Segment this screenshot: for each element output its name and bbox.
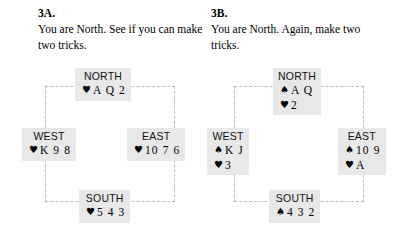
heart-icon: ♥ bbox=[345, 158, 354, 172]
hand-east-cards: 10 7 6 bbox=[145, 144, 180, 156]
hand-east-label: EAST bbox=[132, 130, 180, 143]
hand-south-suit-hearts: ♥5 4 3 bbox=[84, 205, 125, 220]
heart-icon: ♥ bbox=[29, 143, 38, 157]
hand-north-label: NORTH bbox=[80, 70, 126, 83]
spade-icon: ♠ bbox=[276, 205, 285, 219]
spade-icon: ♠ bbox=[345, 143, 354, 157]
spade-icon: ♠ bbox=[280, 83, 289, 97]
problem-3b: 3B. You are North. Again, make two trick… bbox=[203, 0, 405, 236]
hand-north: NORTH ♥A Q 2 bbox=[75, 68, 131, 101]
problem-prompt: You are North. See if you can make two t… bbox=[38, 22, 203, 53]
hand-north-suit-hearts: ♥2 bbox=[278, 98, 316, 113]
hand-south-suit-spades: ♠4 3 2 bbox=[274, 205, 315, 220]
hand-south-cards-spades: 4 3 2 bbox=[287, 206, 316, 218]
hand-east-cards-spades: 10 9 bbox=[356, 144, 381, 156]
problem-3a: 3A. You are North. See if you can make t… bbox=[0, 0, 202, 236]
hand-south: SOUTH ♠4 3 2 bbox=[269, 190, 320, 223]
hand-east: EAST ♠10 9 ♥A bbox=[338, 128, 386, 175]
hand-north-suit-spades: ♠A Q bbox=[278, 83, 316, 98]
hand-north-label: NORTH bbox=[278, 70, 316, 83]
heart-icon: ♥ bbox=[280, 98, 289, 112]
hand-south: SOUTH ♥5 4 3 bbox=[79, 190, 130, 223]
hand-north-cards-spades: A Q bbox=[291, 84, 313, 96]
hand-east-suit-hearts: ♥10 7 6 bbox=[132, 143, 180, 158]
heart-icon: ♥ bbox=[86, 205, 95, 219]
hand-west-label: WEST bbox=[27, 130, 71, 143]
hand-west: WEST ♥K 9 8 bbox=[22, 128, 76, 161]
hand-south-label: SOUTH bbox=[274, 192, 315, 205]
bridge-problems-page: 3A. You are North. See if you can make t… bbox=[0, 0, 405, 236]
hand-west: WEST ♠K J ♥3 bbox=[207, 128, 249, 175]
hand-north: NORTH ♠A Q ♥2 bbox=[273, 68, 321, 115]
hand-west-suit-hearts: ♥3 bbox=[212, 158, 244, 173]
hand-east: EAST ♥10 7 6 bbox=[127, 128, 185, 161]
hand-west-cards: K 9 8 bbox=[40, 144, 71, 156]
hand-east-suit-spades: ♠10 9 bbox=[343, 143, 381, 158]
heart-icon: ♥ bbox=[82, 83, 91, 97]
hand-west-cards-spades: K J bbox=[225, 144, 244, 156]
spade-icon: ♠ bbox=[214, 143, 223, 157]
hand-west-cards-hearts: 3 bbox=[225, 159, 232, 171]
hand-west-suit-spades: ♠K J bbox=[212, 143, 244, 158]
hand-south-cards: 5 4 3 bbox=[97, 206, 126, 218]
hand-west-suit-hearts: ♥K 9 8 bbox=[27, 143, 71, 158]
hand-north-cards: A Q 2 bbox=[93, 84, 126, 96]
hand-east-label: EAST bbox=[343, 130, 381, 143]
hand-west-label: WEST bbox=[212, 130, 244, 143]
problem-label: 3B. bbox=[211, 7, 228, 19]
hand-east-suit-hearts: ♥A bbox=[343, 158, 381, 173]
heart-icon: ♥ bbox=[134, 143, 143, 157]
heart-icon: ♥ bbox=[214, 158, 223, 172]
hand-east-cards-hearts: A bbox=[356, 159, 365, 171]
hand-north-suit-hearts: ♥A Q 2 bbox=[80, 83, 126, 98]
hand-south-label: SOUTH bbox=[84, 192, 125, 205]
problem-label: 3A. bbox=[38, 7, 55, 19]
problem-prompt: You are North. Again, make two tricks. bbox=[211, 22, 391, 53]
hand-north-cards-hearts: 2 bbox=[291, 99, 298, 111]
